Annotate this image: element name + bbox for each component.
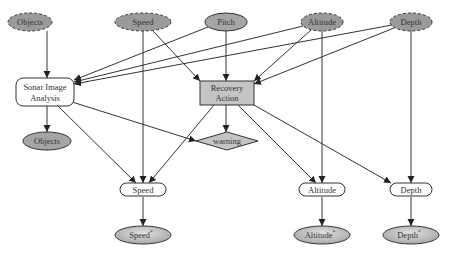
node-label: Speed (133, 185, 155, 195)
node-label: Pitch (217, 17, 235, 27)
node-label-line1: Sonar Image (23, 82, 66, 92)
node-depth-input: Depth (390, 13, 432, 31)
diagram-canvas: Objects Speed Pitch Altitude Depth Sonar… (0, 0, 464, 259)
node-speed-output: Speed* (115, 226, 171, 244)
node-label-text: Speed (129, 230, 151, 240)
node-recovery-action: Recovery Action (200, 81, 254, 105)
node-label-line2: Analysis (30, 93, 60, 103)
edge-recovery-to-speed_mid (149, 105, 214, 183)
node-label-superscript: * (150, 229, 153, 235)
node-label-superscript: * (418, 229, 421, 235)
node-speed-input: Speed (115, 13, 171, 31)
node-label: Altitude (308, 17, 336, 27)
node-label: Speed (133, 17, 155, 27)
node-altitude-mid: Altitude (299, 183, 345, 196)
node-label: Depth (401, 185, 423, 195)
edge-depth_in-to-recovery (254, 28, 394, 84)
node-label: Speed* (129, 229, 153, 240)
node-label-text: Altitude (305, 230, 333, 240)
edge-speed_in-to-recovery (153, 31, 200, 81)
edge-altitude_in-to-recovery (254, 30, 311, 81)
node-label-line2: Action (215, 93, 239, 103)
node-altitude-output: Altitude* (294, 226, 350, 244)
node-warning: warning (196, 132, 258, 150)
node-label: Objects (17, 17, 43, 27)
node-label-line1: Recovery (211, 83, 244, 93)
node-depth-output: Depth* (383, 226, 439, 244)
node-objects-input: Objects (8, 13, 52, 31)
edge-recovery-to-altitude_mid (238, 105, 316, 183)
node-label: Objects (34, 136, 60, 146)
node-label: Altitude (308, 185, 336, 195)
edge-sonar-to-warning (72, 102, 196, 141)
node-label: Depth (401, 17, 423, 27)
node-label-text: Depth (397, 230, 419, 240)
node-altitude-input: Altitude (301, 13, 343, 31)
node-speed-mid: Speed (120, 183, 166, 196)
node-pitch-input: Pitch (205, 13, 247, 31)
node-objects-output: Objects (23, 132, 71, 150)
diagram-svg: Objects Speed Pitch Altitude Depth Sonar… (0, 0, 464, 259)
node-label: warning (213, 136, 242, 146)
node-depth-mid: Depth (390, 183, 432, 196)
edge-depth_in-to-sonar (74, 25, 392, 84)
edges-layer (47, 25, 411, 226)
node-label: Altitude* (305, 229, 336, 240)
node-label-superscript: * (333, 229, 336, 235)
node-label: Depth* (397, 229, 421, 240)
node-sonar-image-analysis: Sonar Image Analysis (16, 78, 74, 106)
